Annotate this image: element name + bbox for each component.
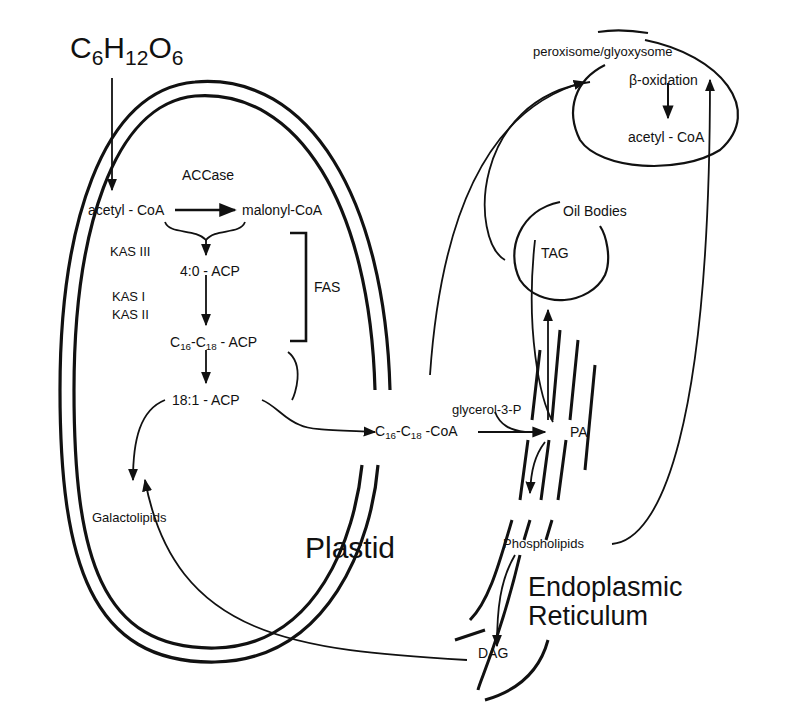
er-label-line1: Endoplasmic [528, 574, 683, 601]
glycerol-3-p-label: glycerol-3-P [452, 403, 521, 416]
fas-label: FAS [314, 280, 340, 294]
dag-label: DAG [478, 646, 508, 660]
perox-acetyl-coa-label: acetyl - CoA [628, 130, 704, 144]
c16-c18-coa-label: C16-C18 -CoA [375, 424, 458, 438]
acetyl-coa-label: acetyl - CoA [88, 203, 164, 217]
kas1-label: KAS I [112, 290, 145, 303]
malonyl-coa-label: malonyl-CoA [242, 203, 322, 217]
acp-4-0-label: 4:0 - ACP [180, 264, 240, 278]
diagram-lines [0, 0, 785, 712]
pa-label: PA [570, 425, 588, 439]
oil-bodies-label: Oil Bodies [563, 204, 627, 218]
peroxisome-label: peroxisome/glyoxysome [533, 45, 672, 58]
glucose-label: C6H12O6 [70, 33, 183, 63]
c16-c18-acp-label: C16-C18 - ACP [170, 335, 257, 349]
beta-oxidation-label: β-oxidation [629, 73, 698, 87]
plastid-label: Plastid [305, 533, 395, 563]
er-membrane [455, 330, 595, 700]
er-label-line2: Reticulum [528, 603, 648, 630]
phospholipids-label: Phospholipids [503, 537, 584, 550]
kas2-label: KAS II [112, 308, 149, 321]
accase-label: ACCase [182, 168, 234, 182]
acp-18-1-label: 18:1 - ACP [172, 393, 240, 407]
kas3-label: KAS III [110, 245, 150, 258]
tag-label: TAG [541, 246, 569, 260]
lipid-metabolism-diagram: C6H12O6 ACCase acetyl - CoA malonyl-CoA … [0, 0, 785, 712]
galactolipids-label: Galactolipids [92, 511, 166, 524]
